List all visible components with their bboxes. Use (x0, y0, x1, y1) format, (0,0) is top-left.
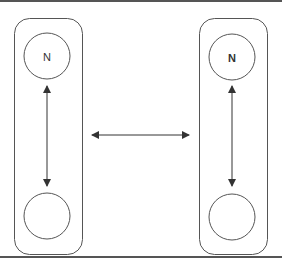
diagram-canvas: N N (0, 0, 282, 270)
panel-left-bottom-node (24, 193, 70, 239)
panel-left-top-node-label: N (43, 51, 51, 63)
panel-left: N (15, 19, 83, 255)
panel-right: N (200, 19, 268, 255)
panel-right-bottom-node (209, 194, 255, 240)
panel-right-top-node-label: N (228, 52, 236, 64)
